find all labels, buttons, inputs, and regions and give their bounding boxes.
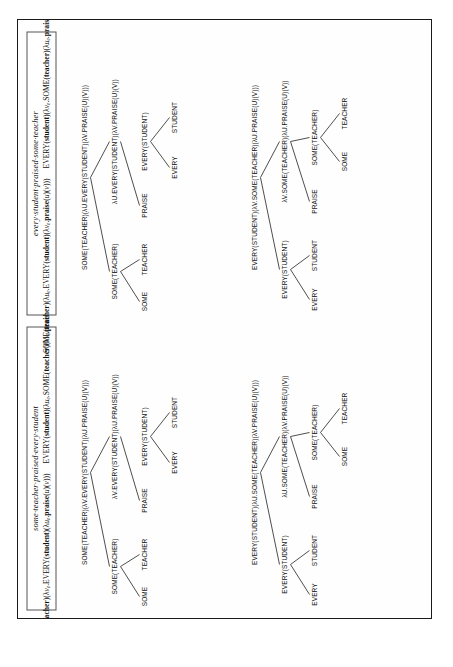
- tree-node: SOME(TEACHER): [310, 109, 317, 165]
- tree-node: TEACHER: [140, 243, 147, 275]
- tree-node: λU.SOME(TEACHER)(λV.PRAISE(U)(V)): [280, 375, 287, 497]
- tree-node: STUDENT: [170, 101, 177, 132]
- tree-node: EVERY(STUDENT): [140, 407, 147, 465]
- tree-level-0: SOME(TEACHER)(λU.EVERY(STUDENT)(λV.PRAIS…: [80, 27, 93, 317]
- tree-branches: [250, 322, 352, 612]
- tree-branches: [250, 27, 352, 317]
- tree-node: TEACHER: [340, 392, 347, 424]
- sentence-title: some·teacher·praised·every·student: [30, 329, 40, 607]
- formula-surface-scope: SOME(teacher)(λve.EVERY(student)(λue.pra…: [42, 473, 51, 619]
- tree-node: PRAISE: [140, 488, 147, 512]
- tree-node: SOME: [340, 446, 347, 466]
- tree-node: λV.EVERY(STUDENT)(λU.PRAISE(U)(V)): [110, 374, 117, 499]
- tree-level-3: SOMETEACHER: [340, 27, 353, 317]
- tree-level-0: SOME(TEACHER)(λV.EVERY(STUDENT)(λU.PRAIS…: [80, 322, 93, 612]
- tree-node: TEACHER: [140, 538, 147, 570]
- tree-node: STUDENT: [310, 534, 317, 565]
- tree-node: SOME(TEACHER): [110, 243, 117, 299]
- figure-body: some·teacher·praised·every·studentSOME(t…: [18, 20, 431, 618]
- derivation-block-1: every·student·praised·some·teacherSOME(t…: [18, 27, 431, 317]
- tree-node: λU.EVERY(STUDENT)(λV.PRAISE(U)(V)): [110, 79, 117, 204]
- tree-level-3: EVERYSTUDENT: [170, 322, 183, 612]
- tree-node: EVERY(STUDENT)(λU.SOME(TEACHER)(λV.PRAIS…: [250, 379, 257, 564]
- tree-level-3: SOMETEACHER: [340, 322, 353, 612]
- figure-page-frame: some·teacher·praised·every·studentSOME(t…: [17, 19, 432, 619]
- tree-node: EVERY(STUDENT)(λV.SOME(TEACHER)(λU.PRAIS…: [250, 84, 257, 269]
- tree-node: SOME: [140, 291, 147, 311]
- tree-branches: [80, 27, 182, 317]
- tree-node: PRAISE: [140, 193, 147, 217]
- tree-node: SOME(TEACHER): [110, 538, 117, 594]
- formula-surface-scope: SOME(teacher)(λue.EVERY(student)(λve.pra…: [42, 178, 51, 352]
- tree-node: SOME(TEACHER)(λU.EVERY(STUDENT)(λV.PRAIS…: [80, 84, 87, 269]
- tree-node: STUDENT: [310, 239, 317, 270]
- summary-box: every·student·praised·some·teacherSOME(t…: [26, 31, 56, 315]
- tree-node: EVERY(STUDENT): [280, 535, 287, 593]
- sentence-title: every·student·praised·some·teacher: [30, 34, 40, 312]
- formula-row: SOME(teacher)(λve.EVERY(student)(λue.pra…: [42, 329, 51, 607]
- tree-node: EVERY: [170, 451, 177, 473]
- tree-node: PRAISE: [310, 484, 317, 508]
- tree-level-2: SOMETEACHERPRAISEEVERY(STUDENT): [140, 322, 153, 612]
- tree-node: SOME(TEACHER)(λV.EVERY(STUDENT)(λU.PRAIS…: [80, 379, 87, 564]
- tree-level-1: SOME(TEACHER)λU.EVERY(STUDENT)(λV.PRAISE…: [110, 27, 123, 317]
- tree-level-2: SOMETEACHERPRAISEEVERY(STUDENT): [140, 27, 153, 317]
- tree-level-1: SOME(TEACHER)λV.EVERY(STUDENT)(λU.PRAISE…: [110, 322, 123, 612]
- tree-node: EVERY(STUDENT): [280, 240, 287, 298]
- tree-node: SOME(TEACHER): [310, 404, 317, 460]
- tree-node: λV.SOME(TEACHER)(λU.PRAISE(U)(V)): [280, 80, 287, 202]
- tree-node: PRAISE: [310, 189, 317, 213]
- tree-level-0: EVERY(STUDENT)(λU.SOME(TEACHER)(λV.PRAIS…: [250, 322, 263, 612]
- tree-branches: [80, 322, 182, 612]
- tree-level-1: EVERY(STUDENT)λU.SOME(TEACHER)(λV.PRAISE…: [280, 322, 293, 612]
- formula-row: SOME(teacher)(λue.EVERY(student)(λve.pra…: [42, 34, 51, 312]
- formula-inverse-scope: EVERY(student)(λve.SOME(teacher)(λue.pra…: [42, 19, 51, 168]
- tree-node: EVERY: [170, 156, 177, 178]
- tree-node: SOME: [140, 586, 147, 606]
- derivation-block-0: some·teacher·praised·every·studentSOME(t…: [18, 322, 431, 612]
- tree-node: TEACHER: [340, 97, 347, 129]
- rotated-figure-stage: some·teacher·praised·every·studentSOME(t…: [18, 20, 431, 618]
- tree-node: STUDENT: [170, 396, 177, 427]
- summary-box: some·teacher·praised·every·studentSOME(t…: [26, 326, 56, 610]
- tree-node: SOME: [340, 151, 347, 171]
- tree-level-2: EVERYSTUDENTPRAISESOME(TEACHER): [310, 27, 323, 317]
- tree-level-3: EVERYSTUDENT: [170, 27, 183, 317]
- tree-level-2: EVERYSTUDENTPRAISESOME(TEACHER): [310, 322, 323, 612]
- tree-node: EVERY(STUDENT): [140, 112, 147, 170]
- tree-node: EVERY: [310, 288, 317, 310]
- tree-level-0: EVERY(STUDENT)(λV.SOME(TEACHER)(λU.PRAIS…: [250, 27, 263, 317]
- tree-node: EVERY: [310, 583, 317, 605]
- tree-level-1: EVERY(STUDENT)λV.SOME(TEACHER)(λU.PRAISE…: [280, 27, 293, 317]
